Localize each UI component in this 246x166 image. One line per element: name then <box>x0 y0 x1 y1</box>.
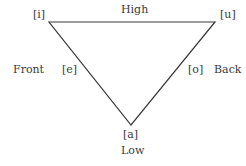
vowel-i: [i] <box>33 9 45 21</box>
vowel-a: [a] <box>123 129 138 141</box>
label-back: Back <box>214 64 241 76</box>
label-low: Low <box>121 145 144 157</box>
vowel-e: [e] <box>62 64 77 76</box>
label-high: High <box>121 4 148 16</box>
vowel-triangle <box>0 0 246 166</box>
label-front: Front <box>13 64 44 76</box>
vowel-o: [o] <box>188 64 203 76</box>
vowel-u: [u] <box>220 9 236 21</box>
